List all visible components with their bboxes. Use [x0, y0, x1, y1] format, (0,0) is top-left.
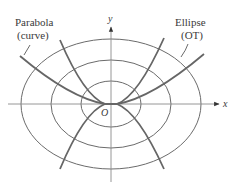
ellipse-label-title: Ellipse — [175, 16, 206, 28]
orthogonal-trajectories-diagram: Parabola (curve) Ellipse (OT) y x O — [0, 0, 244, 186]
origin-label: O — [101, 107, 108, 118]
ellipse-label-sub: (OT) — [181, 29, 203, 42]
parabola-label-sub: (curve) — [17, 29, 49, 42]
parabola-pointer — [24, 45, 30, 55]
x-axis-label: x — [222, 98, 228, 109]
parabola-flat-up — [20, 54, 204, 104]
ellipse-pointer — [181, 44, 188, 57]
y-axis-label: y — [107, 13, 113, 24]
parabola-label-title: Parabola — [15, 16, 54, 28]
parabola-steep-down — [60, 104, 164, 169]
